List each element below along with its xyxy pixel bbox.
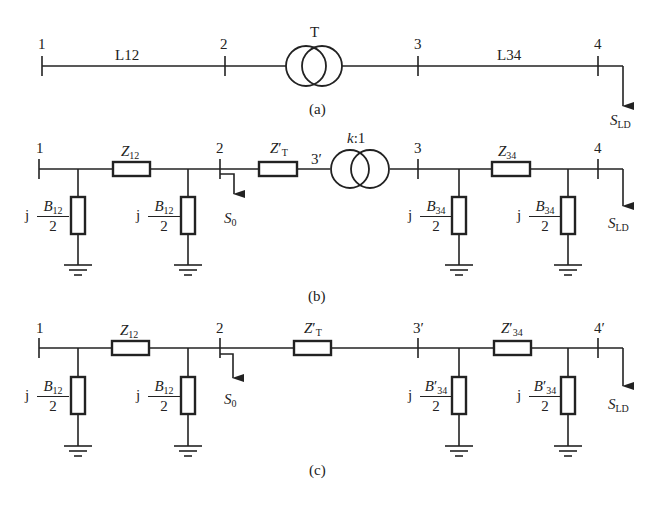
caption-a: (a) <box>309 101 326 118</box>
line-label: L12 <box>115 48 139 63</box>
node-label: 2 <box>216 321 224 336</box>
transformer-label: T <box>310 25 319 40</box>
node-label: 2 <box>216 141 224 156</box>
node-label: 4 <box>594 37 602 52</box>
load-label: SLD <box>608 216 629 233</box>
injection-label: S0 <box>224 392 237 409</box>
diagram-c <box>39 338 623 456</box>
line-label: L34 <box>497 48 521 63</box>
ideal-transformer-icon <box>331 150 389 188</box>
node-label: 1 <box>36 141 44 156</box>
power-system-equivalent-circuit-diagram: 1 2 3 4 L12 L34 T SLD (a) 1 2 3′ 3 4 Z12… <box>0 0 656 509</box>
series-label: Z12 <box>121 144 139 161</box>
node-label: 1 <box>38 37 46 52</box>
load-label: SLD <box>608 397 629 414</box>
injection-arrow-icon <box>220 174 234 194</box>
node-label: 3′ <box>311 152 322 167</box>
series-label: Z12 <box>120 323 138 340</box>
node-label: 2 <box>220 37 228 52</box>
load-label: SLD <box>610 113 631 130</box>
series-label: Z′T <box>304 321 322 338</box>
circuit-drawing <box>0 0 656 509</box>
impedance-z12-icon <box>112 341 149 355</box>
caption-c: (c) <box>309 462 326 479</box>
ratio-label: k:1 <box>347 131 365 146</box>
injection-arrow-icon <box>220 354 233 378</box>
transformer-icon <box>286 46 342 86</box>
impedance-zt-icon <box>294 341 331 355</box>
node-label: 3 <box>414 141 422 156</box>
impedance-z34-icon <box>492 162 530 176</box>
node-label: 4′ <box>594 321 605 336</box>
impedance-z12-icon <box>113 162 150 176</box>
series-label: Z34 <box>498 144 516 161</box>
caption-b: (b) <box>308 288 326 305</box>
node-label: 3 <box>414 37 422 52</box>
node-label: 3′ <box>413 321 424 336</box>
series-label: Z′34 <box>501 321 523 338</box>
injection-label: S0 <box>224 211 237 228</box>
series-label: Z′T <box>270 141 288 158</box>
impedance-zt-icon <box>259 162 297 176</box>
impedance-z34-icon <box>494 341 531 355</box>
node-label: 1 <box>36 321 44 336</box>
node-label: 4 <box>594 141 602 156</box>
